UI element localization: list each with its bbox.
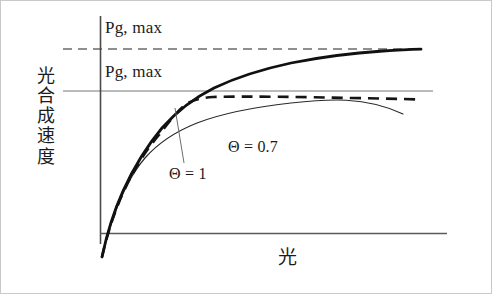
y-axis-label-char: 合 — [33, 86, 59, 106]
pgmax-lower-label: Pg, max — [105, 63, 162, 80]
x-axis-label: 光 — [278, 248, 297, 267]
theta-1-leader-line — [175, 108, 184, 163]
curve-theta-0-7-shape — [102, 113, 421, 257]
photosynthesis-light-response-figure: Pg, max Pg, max Θ = 0.7 Θ = 1 光 光 合 成 速 … — [0, 0, 492, 294]
y-axis-label-char: 速 — [33, 126, 59, 146]
y-axis-label-char: 光 — [33, 66, 59, 86]
pgmax-upper-label: Pg, max — [105, 19, 162, 36]
y-axis-label-char: 度 — [33, 147, 59, 167]
y-axis-label: 光 合 成 速 度 — [33, 66, 59, 167]
y-axis-label-char: 成 — [33, 106, 59, 126]
theta-0-7-annotation: Θ = 0.7 — [228, 139, 278, 155]
theta-1-annotation: Θ = 1 — [169, 166, 207, 182]
